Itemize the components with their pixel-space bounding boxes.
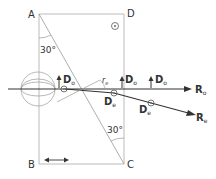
angle-bottom-label: 30° [107, 125, 123, 135]
d-o-label-2: Do [125, 74, 137, 86]
arrow-re-icon [186, 110, 196, 116]
d-o-label-1: Do [63, 74, 75, 86]
point-a-label: A [28, 9, 35, 20]
arrow-ro-icon [184, 86, 192, 92]
extraordinary-ray [114, 93, 192, 114]
d-o-label-3: Do [155, 74, 167, 86]
point-d-label: D [127, 8, 135, 19]
optics-diagram: A D B C 30° 30° Do Do Do De De Ro Re re [0, 0, 216, 179]
point-c-label: C [127, 159, 134, 170]
r-e-angle-label: re [102, 76, 108, 86]
angle-top-label: 30° [40, 45, 56, 55]
r-e-label: Re [196, 112, 208, 124]
angle-arc-top [39, 35, 51, 38]
field-out-marker-icon [61, 23, 154, 107]
r-o-label: Ro [195, 84, 207, 96]
d-e-label-1: De [104, 96, 116, 108]
angle-arc-bottom [111, 138, 124, 141]
point-b-label: B [28, 159, 35, 170]
